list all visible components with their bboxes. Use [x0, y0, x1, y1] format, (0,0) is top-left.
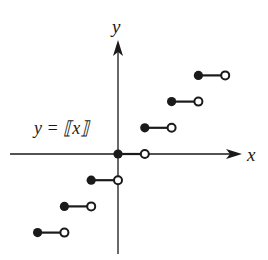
- open-endpoint-icon: [168, 124, 176, 132]
- step-segment: [194, 71, 229, 80]
- step-segment: [140, 123, 175, 132]
- closed-endpoint-icon: [33, 228, 42, 237]
- step-segment: [87, 176, 122, 185]
- step-function-plot: x y y = ⟦x⟧: [0, 0, 268, 260]
- closed-endpoint-icon: [113, 149, 122, 158]
- open-endpoint-icon: [141, 150, 149, 158]
- axes: [10, 40, 242, 254]
- open-endpoint-icon: [87, 202, 95, 210]
- step-segment: [113, 149, 148, 158]
- closed-endpoint-icon: [60, 202, 69, 211]
- step-segment: [167, 97, 202, 106]
- open-endpoint-icon: [114, 176, 122, 184]
- closed-endpoint-icon: [87, 176, 96, 185]
- step-segment: [60, 202, 95, 211]
- function-label: y = ⟦x⟧: [32, 118, 91, 138]
- x-axis-label: x: [246, 144, 256, 165]
- closed-endpoint-icon: [140, 123, 149, 132]
- open-endpoint-icon: [221, 71, 229, 79]
- y-axis-label: y: [110, 16, 121, 37]
- open-endpoint-icon: [194, 98, 202, 106]
- closed-endpoint-icon: [194, 71, 203, 80]
- step-segment: [33, 228, 68, 237]
- open-endpoint-icon: [60, 229, 68, 237]
- closed-endpoint-icon: [167, 97, 176, 106]
